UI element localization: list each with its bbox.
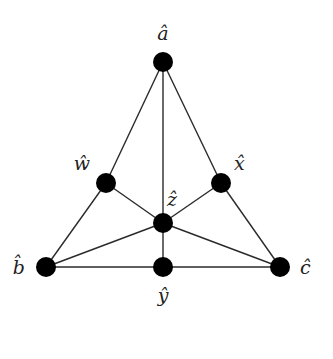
- triangle-graph-diagram: âŵx̂ẑb̂ŷĉ: [0, 0, 333, 359]
- node-y: [153, 257, 173, 277]
- node-x: [211, 173, 231, 193]
- node-label-b: b̂: [13, 254, 25, 278]
- edge-a-x: [163, 62, 221, 183]
- edge-a-w: [106, 62, 163, 183]
- node-c: [270, 257, 290, 277]
- node-label-c: ĉ: [300, 256, 311, 278]
- edge-z-c: [163, 223, 280, 267]
- edge-x-c: [221, 183, 280, 267]
- node-w: [96, 173, 116, 193]
- edge-w-z: [106, 183, 163, 223]
- edge-z-b: [46, 223, 163, 267]
- node-label-x: x̂: [234, 152, 245, 174]
- node-z: [153, 213, 173, 233]
- node-label-w: ŵ: [74, 152, 90, 174]
- node-label-a: â: [157, 22, 168, 44]
- node-label-y: ŷ: [157, 284, 169, 306]
- node-b: [36, 257, 56, 277]
- node-a: [153, 52, 173, 72]
- edge-w-b: [46, 183, 106, 267]
- node-label-z: ẑ: [166, 188, 178, 210]
